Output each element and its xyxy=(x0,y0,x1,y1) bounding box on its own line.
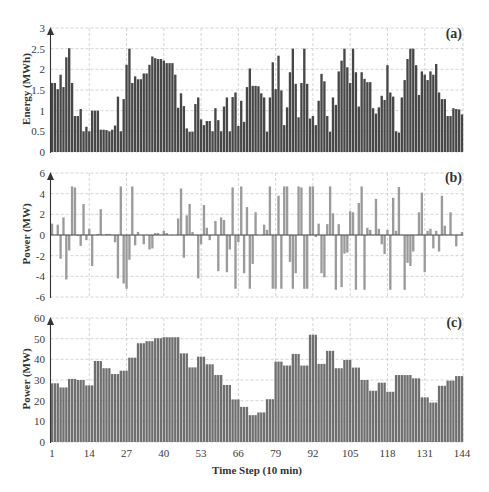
energy-bar xyxy=(360,72,362,152)
load-bar xyxy=(403,375,405,442)
energy-bar xyxy=(363,79,365,152)
energy-bar xyxy=(257,86,259,152)
power-bar xyxy=(383,235,385,254)
energy-bar xyxy=(332,97,334,152)
load-bar xyxy=(274,362,276,442)
energy-bar xyxy=(168,63,170,152)
load-bar xyxy=(246,407,248,442)
load-bar xyxy=(424,397,426,442)
load-bar xyxy=(398,375,400,442)
x-tick-label: 131 xyxy=(416,447,433,459)
power-bar xyxy=(226,235,228,272)
power-bar xyxy=(309,186,311,235)
energy-bar xyxy=(62,87,64,152)
energy-bar xyxy=(65,57,67,152)
y-tick-label: 30 xyxy=(34,374,46,386)
power-bar xyxy=(300,187,302,235)
y-axis-title: Power (MW) xyxy=(20,348,33,410)
load-bar xyxy=(326,351,328,442)
load-bar xyxy=(286,366,288,442)
energy-bar xyxy=(415,65,417,152)
load-bar xyxy=(441,386,443,442)
load-bar xyxy=(217,375,219,442)
power-bar xyxy=(295,235,297,273)
energy-bar xyxy=(246,87,248,152)
x-tick-label: 144 xyxy=(454,447,471,459)
energy-bar xyxy=(85,127,87,152)
energy-bar xyxy=(352,49,354,152)
energy-bar xyxy=(395,131,397,152)
power-bar xyxy=(355,235,357,290)
power-bar xyxy=(398,187,400,235)
load-bar xyxy=(283,366,285,442)
power-bar xyxy=(444,226,446,235)
load-bar xyxy=(277,362,279,442)
power-bar xyxy=(62,217,64,235)
load-bar xyxy=(94,361,96,442)
energy-bar xyxy=(358,107,360,152)
power-bar xyxy=(317,224,319,235)
energy-bar xyxy=(200,119,202,152)
load-bar xyxy=(320,364,322,442)
load-bar xyxy=(166,337,168,442)
power-bars xyxy=(51,186,463,289)
power-bar xyxy=(237,235,239,242)
power-bar xyxy=(143,235,145,244)
load-bar xyxy=(134,358,136,442)
energy-bar xyxy=(143,73,145,152)
y-tick-label: 20 xyxy=(34,395,46,407)
energy-bar xyxy=(229,131,231,152)
load-bar xyxy=(455,376,457,442)
power-bar xyxy=(455,235,457,246)
power-bar xyxy=(303,235,305,289)
energy-bar xyxy=(280,90,282,152)
power-bar xyxy=(289,235,291,262)
load-bar xyxy=(458,376,460,442)
load-bar xyxy=(338,368,340,442)
energy-bar xyxy=(157,59,159,152)
load-bar xyxy=(163,337,165,442)
energy-bar xyxy=(378,107,380,152)
y-axis-title: Power (MW) xyxy=(20,203,33,265)
energy-bar xyxy=(174,75,176,152)
energy-bar xyxy=(326,116,328,152)
power-bar xyxy=(338,224,340,235)
power-bar xyxy=(163,231,165,235)
power-bar xyxy=(114,235,116,242)
load-bar xyxy=(429,403,431,442)
energy-bar xyxy=(214,108,216,152)
load-bar xyxy=(54,383,56,442)
power-bar xyxy=(51,224,53,235)
energy-bar xyxy=(163,61,165,152)
energy-bar xyxy=(343,49,345,152)
energy-bar xyxy=(145,73,147,152)
energy-bar xyxy=(403,80,405,152)
x-tick-label: 92 xyxy=(307,447,318,459)
energy-bar xyxy=(186,128,188,152)
power-bar xyxy=(240,186,242,235)
power-bar xyxy=(59,235,61,259)
load-bar xyxy=(194,367,196,442)
power-bar xyxy=(74,187,76,235)
load-bar xyxy=(102,368,104,442)
energy-bar xyxy=(237,126,239,152)
energy-bar xyxy=(71,83,73,152)
load-bar xyxy=(186,353,188,442)
load-bar xyxy=(82,380,84,442)
power-bar xyxy=(386,230,388,235)
load-bar xyxy=(105,368,107,442)
load-bar xyxy=(375,391,377,442)
power-bar xyxy=(283,186,285,235)
load-bar xyxy=(306,366,308,442)
load-bar xyxy=(260,412,262,442)
load-bar xyxy=(343,360,345,442)
load-bar xyxy=(62,387,64,442)
power-bar xyxy=(88,229,90,235)
power-bar xyxy=(378,229,380,235)
load-bar xyxy=(71,379,73,442)
panel-energy: 00.511.522.53 Energy (MWh) (a) xyxy=(20,22,463,158)
energy-bar xyxy=(252,86,254,152)
y-tick-label: 60 xyxy=(34,312,46,324)
load-bars xyxy=(51,335,463,442)
energy-bar xyxy=(323,81,325,152)
